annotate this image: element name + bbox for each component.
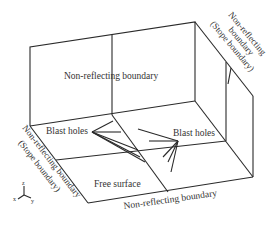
floor-edges [30, 101, 253, 203]
boundary-diagram: Non-reflecting boundary Blast holes Blas… [0, 0, 280, 225]
axis-triad-icon: z x y [13, 180, 34, 204]
front-boundary-label: Non-reflecting boundary [123, 188, 218, 211]
axis-x-label: x [13, 196, 16, 202]
back-wall-label: Non-reflecting boundary [64, 71, 158, 81]
axis-y-label: y [31, 198, 34, 204]
axis-z-label: z [22, 180, 25, 186]
blast-holes-left-label: Blast holes [46, 126, 88, 136]
blast-holes-right-label: Blast holes [173, 128, 215, 138]
free-surface-label: Free surface [94, 179, 141, 189]
blast-holes-left-lines [92, 121, 145, 162]
